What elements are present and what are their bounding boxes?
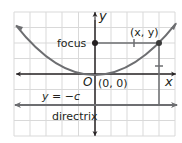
point-label: (x, y) (130, 26, 159, 39)
focus-label: focus (57, 37, 87, 50)
vertex-label: (0, 0) (98, 77, 128, 90)
parabola-diagram: y x O (0, 0) focus (x, y) y = −c directr… (0, 0, 182, 143)
directrix-label: directrix (52, 110, 98, 123)
directrix-equation-label: y = −c (41, 90, 80, 103)
origin-label: O (83, 75, 92, 89)
y-axis-label: y (98, 8, 107, 23)
parabola-point (156, 40, 162, 46)
x-axis-label: x (164, 74, 173, 89)
focus-point (92, 40, 98, 46)
